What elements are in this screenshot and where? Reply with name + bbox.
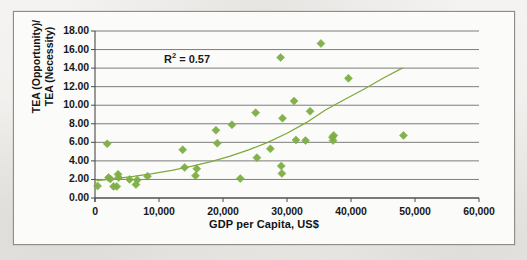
data-point xyxy=(277,162,285,170)
y-axis-title-line-2: TEA (Necessity) xyxy=(42,0,55,152)
data-point xyxy=(317,40,325,48)
data-point xyxy=(292,136,300,144)
data-point xyxy=(344,74,352,82)
y-axis-title: TEA (Opportunity)/ TEA (Necessity) xyxy=(30,0,55,152)
data-point xyxy=(290,97,298,105)
y-tick-label-16: 16.00 xyxy=(45,43,89,55)
y-tick-label-6: 6.00 xyxy=(45,135,89,147)
data-point xyxy=(266,145,274,153)
x-tick-label-60000: 60,000 xyxy=(447,205,511,217)
series-0-markers xyxy=(94,40,408,191)
x-tick-label-50000: 50,000 xyxy=(383,205,447,217)
data-point xyxy=(191,172,199,180)
data-point xyxy=(103,140,111,148)
data-point xyxy=(236,175,244,183)
chart-frame: TEA (Opportunity)/ TEA (Necessity) GDP p… xyxy=(13,11,515,245)
data-point xyxy=(399,131,407,139)
data-point xyxy=(228,121,236,129)
data-point xyxy=(212,126,220,134)
data-point xyxy=(179,146,187,154)
x-tick-label-20000: 20,000 xyxy=(191,205,255,217)
r-squared-symbol: R xyxy=(164,53,172,65)
y-tick-label-2: 2.00 xyxy=(45,172,89,184)
r-squared-value: = 0.57 xyxy=(176,53,210,65)
data-point xyxy=(277,53,285,61)
data-point xyxy=(302,136,310,144)
data-point xyxy=(213,139,221,147)
y-tick-label-10: 10.00 xyxy=(45,98,89,110)
r-squared-annotation: R2 = 0.57 xyxy=(164,51,210,65)
data-point xyxy=(252,109,260,117)
y-tick-label-8: 8.00 xyxy=(45,117,89,129)
y-tick-label-14: 14.00 xyxy=(45,61,89,73)
data-point xyxy=(306,107,314,115)
y-axis-title-line-1: TEA (Opportunity)/ xyxy=(30,0,43,152)
x-tick-label-30000: 30,000 xyxy=(255,205,319,217)
x-tick-label-10000: 10,000 xyxy=(127,205,191,217)
trendline xyxy=(97,68,402,180)
data-point xyxy=(181,163,189,171)
y-tick-label-4: 4.00 xyxy=(45,154,89,166)
x-tick-label-0: 0 xyxy=(63,205,127,217)
y-tick-label-12: 12.00 xyxy=(45,80,89,92)
data-point xyxy=(279,114,287,122)
x-tick-label-40000: 40,000 xyxy=(319,205,383,217)
y-tick-label-0: 0.00 xyxy=(45,191,89,203)
y-tick-label-18: 18.00 xyxy=(45,24,89,36)
plot-area: TEA (Opportunity)/ TEA (Necessity) GDP p… xyxy=(14,12,514,244)
data-point xyxy=(278,169,286,177)
x-axis-title: GDP per Capita, US$ xyxy=(14,218,514,230)
